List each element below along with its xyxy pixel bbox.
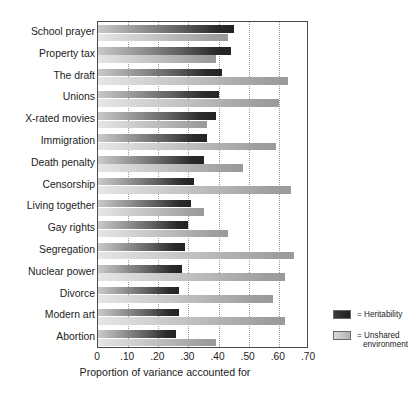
bar-group <box>98 131 307 153</box>
y-axis-label: Death penalty <box>31 157 95 168</box>
bar-unshared-environment <box>98 208 204 216</box>
bar-unshared-environment <box>98 121 207 129</box>
y-axis-label: School prayer <box>31 26 95 37</box>
legend-text-heritability: Heritability <box>364 310 402 319</box>
bar-group <box>98 262 307 284</box>
legend-equals-unshared: = <box>357 331 362 340</box>
bar-group <box>98 305 307 327</box>
bar-unshared-environment <box>98 164 243 172</box>
y-axis-label: X-rated movies <box>25 113 95 124</box>
y-axis-label: Living together <box>27 200 95 211</box>
bar-heritability <box>98 69 222 77</box>
bar-unshared-environment <box>98 252 294 260</box>
bar-unshared-environment <box>98 273 285 281</box>
x-tick-label: .60 <box>263 351 293 362</box>
bar-heritability <box>98 265 182 273</box>
bar-heritability <box>98 287 179 295</box>
bar-heritability <box>98 47 231 55</box>
legend-text-unshared: Unshared <box>364 331 400 340</box>
bar-heritability <box>98 330 176 338</box>
x-tick-label: .10 <box>112 351 142 362</box>
bar-group <box>98 196 307 218</box>
bar-group <box>98 87 307 109</box>
y-axis-label: Segregation <box>39 244 95 255</box>
y-axis-label: Gay rights <box>48 222 95 233</box>
x-tick-label: .70 <box>293 351 323 362</box>
x-tick-label: .30 <box>172 351 202 362</box>
legend-equals-heritability: = <box>357 310 362 319</box>
bar-group <box>98 66 307 88</box>
bar-heritability <box>98 91 219 99</box>
x-tick-label: 0 <box>82 351 112 362</box>
y-axis-label: Abortion <box>56 331 95 342</box>
bar-heritability <box>98 178 194 186</box>
bar-unshared-environment <box>98 339 216 347</box>
bar-heritability <box>98 134 207 142</box>
bar-group <box>98 284 307 306</box>
bar-group <box>98 240 307 262</box>
plot-area <box>97 21 308 348</box>
y-axis-label: Censorship <box>42 179 95 190</box>
bar-group <box>98 327 307 349</box>
bar-unshared-environment <box>98 143 276 151</box>
bar-unshared-environment <box>98 295 273 303</box>
bar-heritability <box>98 25 234 33</box>
bar-unshared-environment <box>98 77 288 85</box>
bar-unshared-environment <box>98 99 279 107</box>
y-axis-label: Unions <box>63 91 95 102</box>
y-axis-label: Immigration <box>41 135 95 146</box>
x-axis-title: Proportion of variance accounted for <box>0 366 330 378</box>
bar-heritability <box>98 309 179 317</box>
legend-label-heritability: = Heritability <box>357 310 402 319</box>
bar-unshared-environment <box>98 55 216 63</box>
bar-unshared-environment <box>98 186 291 194</box>
y-axis-label: Modern art <box>45 309 95 320</box>
bar-heritability <box>98 156 204 164</box>
y-axis-label: Property tax <box>39 48 95 59</box>
bar-group <box>98 44 307 66</box>
bar-heritability <box>98 221 188 229</box>
y-axis-label: Nuclear power <box>28 266 95 277</box>
bar-group <box>98 175 307 197</box>
bar-group <box>98 22 307 44</box>
y-axis-label: Divorce <box>60 288 95 299</box>
bar-group <box>98 218 307 240</box>
bar-heritability <box>98 200 191 208</box>
x-tick-label: .40 <box>203 351 233 362</box>
bar-unshared-environment <box>98 317 285 325</box>
bar-unshared-environment <box>98 230 228 238</box>
bar-group <box>98 109 307 131</box>
legend-text-environment: environment <box>363 340 408 349</box>
bar-group <box>98 153 307 175</box>
bar-heritability <box>98 243 185 251</box>
bar-unshared-environment <box>98 34 228 42</box>
y-axis-label: The draft <box>53 70 95 81</box>
x-tick-label: .20 <box>142 351 172 362</box>
bar-chart: Proportion of variance accounted for = H… <box>0 0 416 393</box>
legend-swatch-unshared-environment <box>333 331 351 340</box>
legend-label-unshared-environment: = Unshared <box>357 331 400 340</box>
x-tick-label: .50 <box>233 351 263 362</box>
legend-swatch-heritability <box>333 310 351 319</box>
bar-heritability <box>98 112 216 120</box>
